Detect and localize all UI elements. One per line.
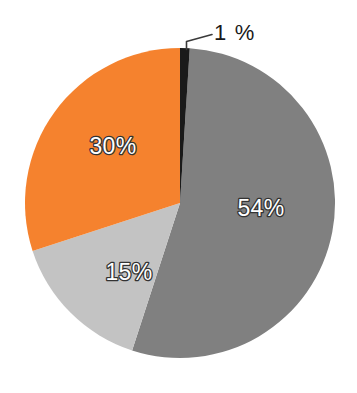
pie-chart-canvas: 54% 30% 15% 1 % [0,0,357,393]
pie-chart-figure: 54% 30% 15% 1 % [0,0,357,393]
pie-label-15: 15% [106,259,153,285]
pie-label-30: 30% [90,133,137,159]
pie-label-1: 1 % [214,20,256,45]
pie-label-54: 54% [238,195,285,221]
pie-slices-group [25,48,335,358]
